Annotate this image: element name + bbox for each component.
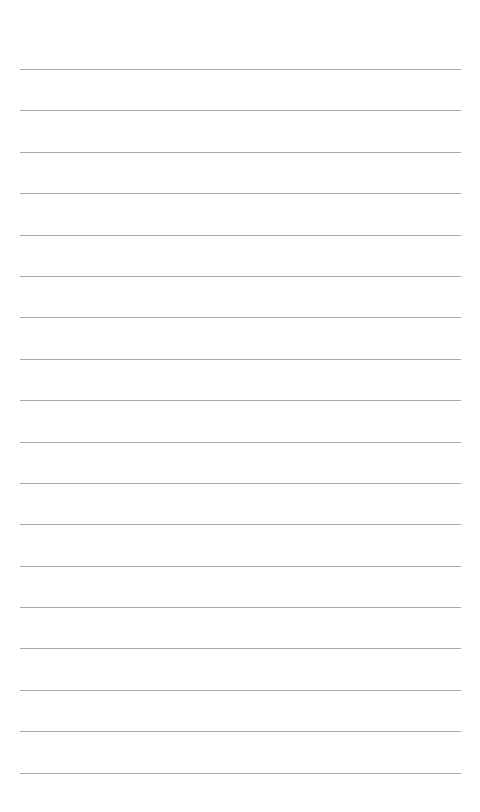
ruled-line bbox=[20, 442, 461, 443]
ruled-line bbox=[20, 193, 461, 194]
ruled-line bbox=[20, 524, 461, 525]
ruled-line bbox=[20, 690, 461, 691]
ruled-line bbox=[20, 648, 461, 649]
ruled-line bbox=[20, 607, 461, 608]
ruled-line bbox=[20, 359, 461, 360]
ruled-line bbox=[20, 773, 461, 774]
ruled-line bbox=[20, 731, 461, 732]
ruled-line bbox=[20, 400, 461, 401]
ruled-line bbox=[20, 317, 461, 318]
ruled-line bbox=[20, 276, 461, 277]
ruled-line bbox=[20, 152, 461, 153]
ruled-line bbox=[20, 235, 461, 236]
ruled-line bbox=[20, 483, 461, 484]
ruled-line bbox=[20, 566, 461, 567]
ruled-line bbox=[20, 69, 461, 70]
ruled-line bbox=[20, 110, 461, 111]
lined-paper-page bbox=[0, 0, 480, 812]
